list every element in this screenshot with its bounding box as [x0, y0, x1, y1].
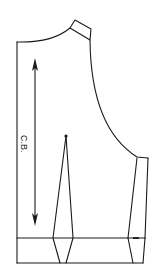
grainline-arrow	[32, 58, 38, 226]
grainline-label: C.B.	[19, 135, 29, 153]
notch-mark	[133, 237, 139, 239]
waistband	[17, 237, 145, 263]
shoulder-strap	[70, 20, 91, 40]
dart-apex-dot	[64, 134, 67, 137]
waist-dart	[53, 134, 73, 263]
pattern-svg: C.B.	[0, 0, 159, 270]
armhole	[90, 40, 148, 158]
pattern-diagram: C.B.	[0, 0, 159, 270]
side-panel	[128, 158, 148, 238]
neckline	[17, 28, 70, 42]
